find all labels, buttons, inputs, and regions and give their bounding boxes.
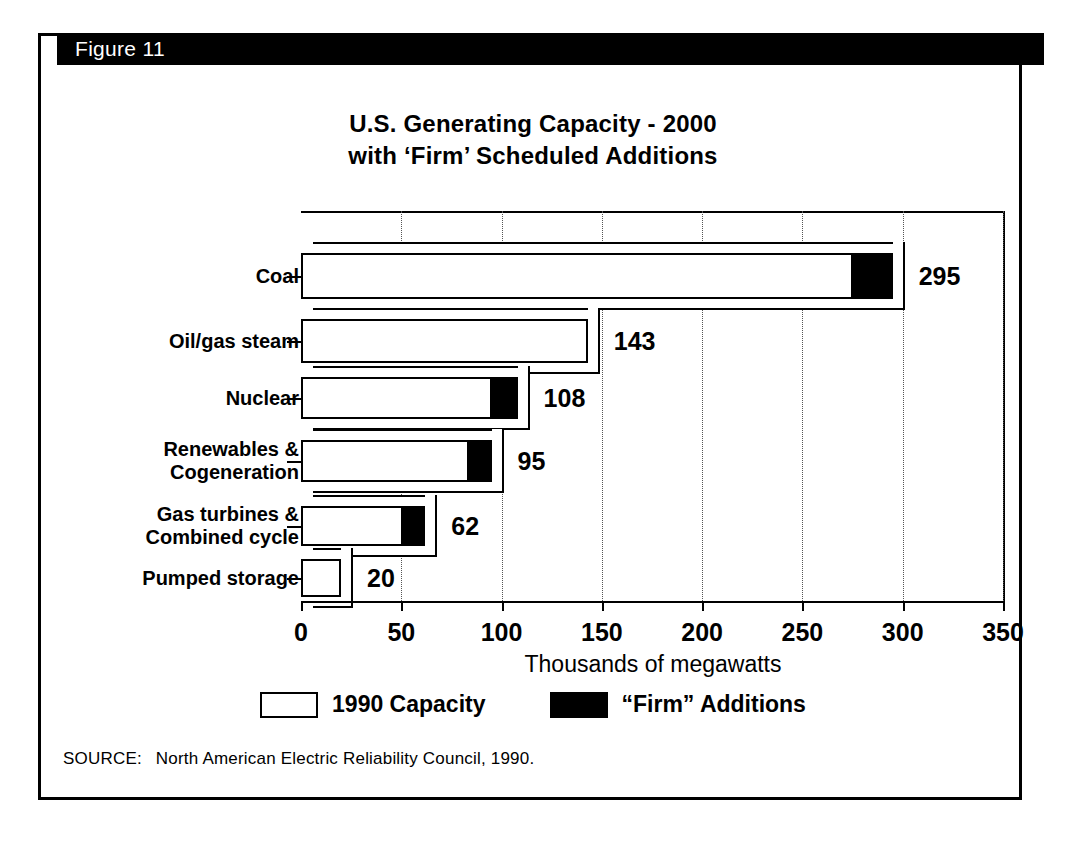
x-axis-tick-label: 100 [481,618,523,647]
x-axis-tick [502,601,504,611]
category-tick [287,578,301,580]
legend-label: “Firm” Additions [622,691,806,718]
category-label-line: Gas turbines & [146,503,299,526]
bar-top-face [313,366,530,377]
bar-bottom-face [313,482,504,493]
gridline [1003,211,1004,601]
category-tick [287,461,301,463]
bar-value-label: 20 [367,564,395,593]
bar-side-face [518,366,530,419]
figure-frame: Figure 11 U.S. Generating Capacity - 200… [38,33,1022,800]
category-label-line: Cogeneration [163,461,299,484]
legend-item: 1990 Capacity [260,691,485,718]
category-label: Pumped storage [142,567,299,590]
bar-side-face [341,548,353,597]
x-axis-tick-label: 250 [782,618,824,647]
x-axis-line [301,601,1005,603]
plot-area: 295143108956220 CoalOil/gas steamNuclear… [41,36,1025,803]
x-axis-tick [401,601,403,611]
bar-top-face [313,495,437,506]
x-axis-tick [602,601,604,611]
bar-value-label: 62 [451,512,479,541]
legend-item: “Firm” Additions [550,691,806,718]
x-axis-tick-label: 0 [294,618,308,647]
bar-segment-additions [492,377,518,419]
category-tick [287,341,301,343]
x-axis-tick-label: 350 [982,618,1024,647]
category-tick [287,526,301,528]
bar-value-label: 95 [518,447,546,476]
bar-value-label: 143 [614,327,656,356]
bar-nuclear [301,377,530,431]
category-label: Oil/gas steam [169,330,299,353]
x-axis-tick-label: 150 [581,618,623,647]
source-text: North American Electric Reliability Coun… [156,749,535,768]
chart-legend: 1990 Capacity“Firm” Additions [41,691,1025,718]
category-label-line: Renewables & [163,438,299,461]
bar-segment-capacity [301,559,341,597]
bar-value-label: 295 [919,262,961,291]
bar-side-face [588,308,600,363]
bar-top-face [313,429,504,440]
bar-segment-additions [853,253,893,299]
category-label-line: Pumped storage [142,567,299,590]
bar-segment-capacity [301,377,492,419]
plot-top-border [301,211,1005,213]
x-axis-tick [1003,601,1005,611]
source-label: SOURCE: [63,749,142,768]
bar-segment-additions [403,506,425,546]
legend-swatch-dotted [260,692,318,718]
source-note: SOURCE:North American Electric Reliabili… [63,749,534,769]
category-tick [287,276,301,278]
x-axis-title: Thousands of megawatts [301,651,1005,678]
bar-value-label: 108 [544,384,586,413]
bar-segment-capacity [301,440,469,482]
bar-segment-additions [469,440,491,482]
category-label: Gas turbines &Combined cycle [146,503,299,549]
x-axis-tick-label: 200 [681,618,723,647]
x-axis-tick-label: 300 [882,618,924,647]
bar-segment-capacity [301,506,403,546]
x-axis-tick-label: 50 [387,618,415,647]
category-tick [287,398,301,400]
bar-top-face [313,242,905,253]
category-label-line: Oil/gas steam [169,330,299,353]
legend-label: 1990 Capacity [332,691,485,718]
bar-top-face [313,308,600,319]
bar-segment-capacity [301,319,588,363]
bar-coal [301,253,905,311]
x-axis-tick [702,601,704,611]
x-axis-tick [301,601,303,611]
category-label: Renewables &Cogeneration [163,438,299,484]
x-axis-tick [802,601,804,611]
bar-segment-capacity [301,253,853,299]
bar-side-face [492,429,504,482]
category-label-line: Combined cycle [146,526,299,549]
x-axis-tick [903,601,905,611]
legend-swatch-solid [550,692,608,718]
bar-side-face [425,495,437,546]
bar-renewables-cogeneration [301,440,504,494]
bar-side-face [893,242,905,299]
